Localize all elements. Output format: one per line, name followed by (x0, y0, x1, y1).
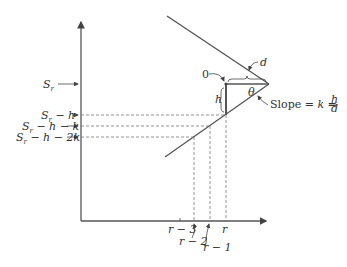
arrow-d (249, 62, 258, 70)
slope-denominator: d (331, 102, 338, 115)
label-sr: Sr (43, 78, 55, 93)
label-theta: θ (248, 86, 255, 99)
arrow-zero (209, 74, 224, 81)
label-r: r (222, 223, 228, 236)
brace-d (228, 76, 266, 82)
label-sr-h-2k: Sr − h − 2k (16, 131, 80, 146)
arrow-slope (258, 96, 268, 105)
upper-line (167, 16, 269, 84)
label-zero: 0 (202, 68, 209, 81)
diagram-canvas: Sr Sr − h Sr − h − k Sr − h − 2k r r − 3… (0, 0, 347, 267)
point-zero (224, 82, 227, 85)
label-slope: Slope = k = (270, 98, 337, 111)
label-d: d (260, 56, 267, 69)
label-r-1: r − 1 (203, 241, 231, 254)
